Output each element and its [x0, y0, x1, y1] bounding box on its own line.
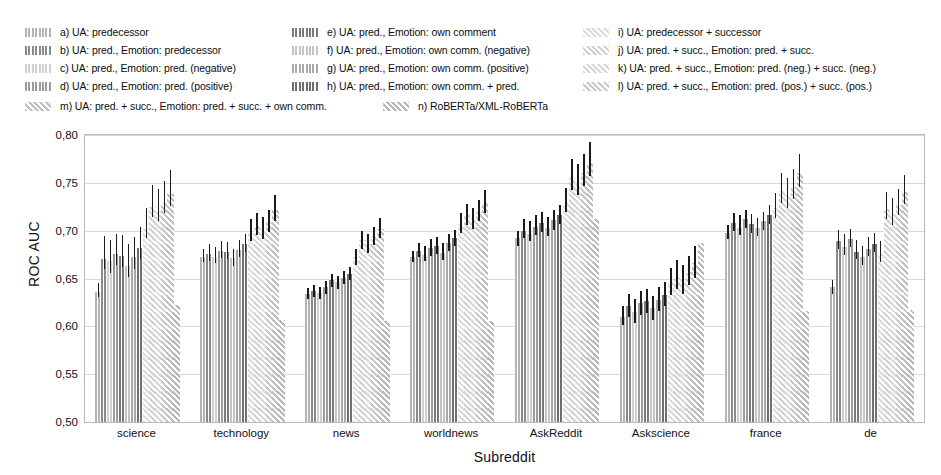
legend-item-n: n) RoBERTa/XML-RoBERTa [383, 100, 548, 112]
error-bar-worldnews-k [472, 208, 474, 229]
error-bar-AskReddit-h [559, 205, 561, 224]
error-bar-france-h [769, 205, 771, 224]
error-bar-technology-i [250, 219, 252, 241]
plot-area [84, 134, 925, 423]
error-bar-news-c [319, 287, 321, 298]
legend-label-b: b) UA: pred., Emotion: predecessor [60, 44, 221, 56]
error-bar-Askscience-c [634, 299, 636, 324]
legend-item-d: d) UA: pred., Emotion: pred. (positive) [25, 80, 232, 92]
legend-item-b: b) UA: pred., Emotion: predecessor [25, 44, 221, 56]
bar-group-de [830, 135, 914, 422]
error-bar-AskReddit-a [517, 231, 519, 246]
bar-group-worldnews [410, 135, 494, 422]
y-tick-label: 0,80 [32, 129, 78, 141]
error-bar-france-l [793, 169, 795, 199]
legend-swatch-a [25, 28, 51, 37]
legend-swatch-l [583, 82, 609, 91]
y-tick-label: 0,55 [32, 368, 78, 380]
error-bar-AskReddit-l [583, 154, 585, 186]
error-bar-Askscience-l [688, 256, 690, 285]
error-bar-Askscience-k [682, 265, 684, 294]
legend-swatch-g [292, 64, 318, 73]
error-bar-Askscience-d [640, 291, 642, 315]
legend-swatch-k [583, 64, 609, 73]
error-bar-news-j [361, 231, 363, 249]
error-bar-technology-l [268, 210, 270, 232]
error-bar-AskReddit-d [535, 215, 537, 235]
error-bar-france-f [757, 218, 759, 236]
legend-item-k: k) UA: pred. + succ., Emotion: pred. (ne… [583, 62, 876, 74]
legend-item-i: i) UA: predecessor + successor [583, 26, 761, 38]
error-bar-science-k [158, 189, 160, 222]
legend-label-i: i) UA: predecessor + successor [618, 26, 761, 38]
error-bar-AskReddit-k [577, 164, 579, 196]
error-bar-france-i [775, 193, 777, 218]
error-bar-news-a [307, 288, 309, 299]
error-bar-science-d [116, 234, 118, 266]
error-bar-AskReddit-m [589, 142, 591, 176]
legend-swatch-f [292, 46, 318, 55]
error-bar-technology-c [215, 247, 217, 263]
bar-AskReddit-n [593, 219, 599, 422]
error-bar-science-f [128, 244, 130, 277]
error-bar-de-l [898, 189, 900, 216]
error-bar-AskReddit-b [523, 219, 525, 238]
error-bar-worldnews-j [466, 204, 468, 225]
error-bar-news-g [343, 271, 345, 284]
legend-label-f: f) UA: pred., Emotion: own comm. (negati… [327, 44, 530, 56]
error-bar-france-a [727, 225, 729, 239]
x-tick-label-france: france [750, 427, 782, 439]
legend-label-a: a) UA: predecessor [60, 26, 149, 38]
legend-label-e: e) UA: pred., Emotion: own comment [327, 26, 496, 38]
legend-swatch-d [25, 82, 51, 91]
error-bar-technology-f [233, 249, 235, 266]
legend-swatch-b [25, 46, 51, 55]
legend-swatch-c [25, 64, 51, 73]
x-axis-ticks: sciencetechnologynewsworldnewsAskRedditA… [84, 427, 925, 445]
error-bar-Askscience-m [694, 246, 696, 278]
legend-swatch-m [25, 102, 51, 111]
error-bar-news-h [349, 267, 351, 280]
error-bar-de-h [874, 233, 876, 252]
error-bar-AskReddit-i [565, 188, 567, 213]
error-bar-Askscience-e [646, 289, 648, 313]
legend-label-m: m) UA: pred. + succ., Emotion: pred. + s… [60, 100, 327, 112]
legend-item-g: g) UA: pred., Emotion: own comm. (positi… [292, 62, 529, 74]
legend-label-n: n) RoBERTa/XML-RoBERTa [418, 100, 548, 112]
error-bar-Askscience-a [622, 306, 624, 325]
error-bar-de-a [832, 280, 834, 293]
legend-item-f: f) UA: pred., Emotion: own comm. (negati… [292, 44, 530, 56]
x-tick-label-de: de [864, 427, 877, 439]
error-bar-de-c [844, 234, 846, 254]
error-bar-france-g [763, 212, 765, 230]
legend-swatch-j [583, 46, 609, 55]
legend-item-m: m) UA: pred. + succ., Emotion: pred. + s… [25, 100, 327, 112]
y-tick-label: 0,60 [32, 320, 78, 332]
error-bar-AskReddit-e [541, 212, 543, 231]
legend-swatch-n [383, 102, 409, 111]
legend-label-l: l) UA: pred. + succ., Emotion: pred. (po… [618, 80, 872, 92]
error-bar-news-m [379, 218, 381, 238]
error-bar-Askscience-b [628, 294, 630, 317]
error-bar-technology-e [227, 242, 229, 259]
error-bar-news-e [331, 274, 333, 287]
error-bar-technology-k [262, 217, 264, 239]
legend-label-d: d) UA: pred., Emotion: pred. (positive) [60, 80, 232, 92]
bar-france-n [803, 311, 809, 422]
bar-group-science [95, 135, 179, 422]
error-bar-de-i [880, 241, 882, 262]
x-tick-label-worldnews: worldnews [424, 427, 478, 439]
error-bar-technology-a [203, 249, 205, 262]
legend-item-h: h) UA: pred., Emotion: own comm. + pred. [292, 80, 519, 92]
error-bar-AskReddit-c [529, 221, 531, 241]
x-axis-label: Subreddit [84, 449, 925, 465]
legend-item-c: c) UA: pred., Emotion: pred. (negative) [25, 62, 236, 74]
error-bar-news-d [325, 281, 327, 293]
error-bar-technology-m [274, 195, 276, 221]
y-axis-label: ROC AUC [26, 194, 42, 314]
error-bar-worldnews-b [418, 243, 420, 257]
error-bar-worldnews-e [436, 237, 438, 253]
bar-group-Askscience [620, 135, 704, 422]
bar-group-news [305, 135, 389, 422]
legend-item-e: e) UA: pred., Emotion: own comment [292, 26, 496, 38]
